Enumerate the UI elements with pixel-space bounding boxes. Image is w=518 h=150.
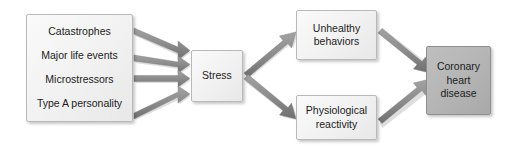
source-label-major-life-events: Major life events bbox=[31, 49, 128, 62]
physiological-reactivity-label-line1: Physiological bbox=[306, 104, 367, 117]
stressor-sources-box[interactable]: Catastrophes Major life events Microstre… bbox=[26, 14, 133, 122]
source-label-catastrophes: Catastrophes bbox=[31, 25, 128, 38]
arrow-stress-to-unhealthy-behaviors bbox=[244, 32, 296, 78]
coronary-heart-disease-label-line1: Coronary bbox=[437, 60, 480, 73]
physiological-reactivity-label-line2: reactivity bbox=[306, 118, 367, 131]
source-label-microstressors: Microstressors bbox=[31, 73, 128, 86]
unhealthy-behaviors-label-line1: Unhealthy bbox=[313, 22, 360, 35]
unhealthy-behaviors-label-line2: behaviors bbox=[313, 35, 360, 48]
stress-box[interactable]: Stress bbox=[191, 50, 243, 102]
coronary-heart-disease-box[interactable]: Coronary heart disease bbox=[426, 46, 491, 115]
coronary-heart-disease-label-line3: disease bbox=[437, 87, 480, 100]
physiological-reactivity-box[interactable]: Physiological reactivity bbox=[296, 95, 377, 140]
stress-chd-diagram: Catastrophes Major life events Microstre… bbox=[0, 0, 518, 150]
arrow-microstressors-to-stress bbox=[134, 70, 190, 87]
unhealthy-behaviors-box[interactable]: Unhealthy behaviors bbox=[296, 10, 377, 60]
arrow-shapes bbox=[134, 28, 430, 124]
arrow-catastrophes-to-stress bbox=[134, 28, 190, 60]
source-label-type-a-personality: Type A personality bbox=[31, 97, 128, 110]
arrow-stress-to-physiological-reactivity bbox=[244, 75, 296, 120]
coronary-heart-disease-label-line2: heart bbox=[437, 74, 480, 87]
arrow-unhealthy-behaviors-to-chd bbox=[378, 29, 430, 74]
arrow-physiological-reactivity-to-chd bbox=[378, 79, 430, 124]
stress-label: Stress bbox=[202, 69, 232, 82]
